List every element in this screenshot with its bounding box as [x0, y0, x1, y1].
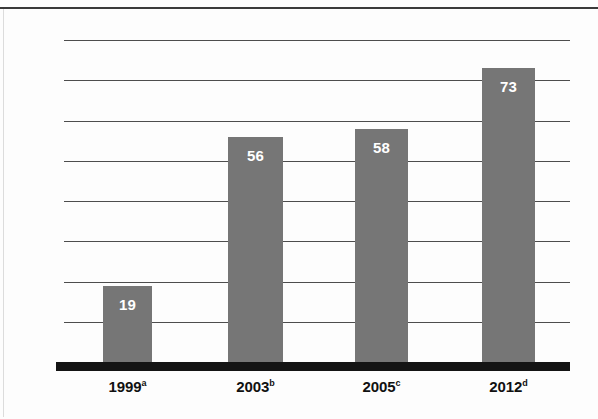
plot-area: 80 70 60 50 40 30 20 10 19 56 58 [64, 40, 570, 362]
category-footnote-1999: a [142, 378, 147, 388]
left-margin-rule [3, 9, 4, 417]
bar-value-2005: 58 [355, 140, 408, 155]
category-label-1999: 1999a [83, 378, 172, 395]
bar-2003[interactable]: 56 [228, 137, 283, 362]
category-label-2005-text: 2005 [363, 378, 396, 395]
bar-chart-figure: 80 70 60 50 40 30 20 10 19 56 58 [0, 0, 598, 419]
bar-value-2003: 56 [228, 148, 283, 163]
category-label-2003-text: 2003 [236, 378, 269, 395]
category-footnote-2003: b [269, 378, 274, 388]
bar-value-2012: 73 [482, 79, 535, 94]
category-label-2012-text: 2012 [489, 378, 522, 395]
category-footnote-2012: d [522, 378, 527, 388]
category-label-2012: 2012d [464, 378, 553, 395]
bar-2012[interactable]: 73 [482, 68, 535, 362]
bar-1999[interactable]: 19 [103, 286, 152, 363]
bar-value-1999: 19 [103, 297, 152, 312]
top-divider-rule [0, 7, 598, 9]
category-label-1999-text: 1999 [109, 378, 142, 395]
axis-baseline-zero: 0 [56, 362, 570, 371]
category-footnote-2005: c [396, 378, 401, 388]
category-label-2003: 2003b [211, 378, 300, 395]
gridline-80: 80 [64, 40, 570, 41]
category-label-2005: 2005c [337, 378, 426, 395]
bar-2005[interactable]: 58 [355, 129, 408, 363]
